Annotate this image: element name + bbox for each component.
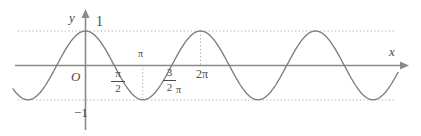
x-tick-label-pi: π [138, 49, 143, 59]
x-axis-arrowhead [400, 62, 409, 70]
origin-label: O [71, 70, 80, 83]
x-tick-label-three-halves-pi-symbol: π [176, 84, 181, 95]
graph-canvas [0, 0, 421, 136]
x-tick-label-pi-over-2: π 2 [111, 68, 125, 94]
cosine-graph-figure: y 1 x O π 2π −1 π 2 3 2 π [0, 0, 421, 136]
fraction-numerator: 3 [163, 67, 176, 79]
x-tick-label-three-halves-pi: 3 2 [163, 67, 176, 93]
fraction-denominator: 2 [163, 82, 176, 94]
x-tick-label-2pi: 2π [196, 68, 208, 80]
y-axis-label: y [69, 11, 75, 24]
x-axis-label: x [389, 45, 395, 58]
y-axis-arrowhead [82, 9, 90, 18]
fraction-denominator: 2 [111, 83, 125, 95]
y-max-label: 1 [96, 15, 103, 29]
fraction-numerator: π [111, 68, 125, 80]
y-min-label: −1 [74, 106, 88, 119]
